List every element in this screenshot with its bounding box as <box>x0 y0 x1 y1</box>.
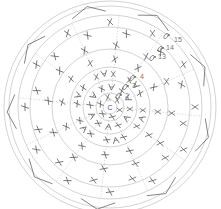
sc-x-icon <box>63 177 71 185</box>
sc-x-icon <box>117 108 123 112</box>
sc-x-icon <box>107 18 113 25</box>
edge-picot <box>7 94 16 128</box>
slip-stitch-dot-icon <box>154 56 156 58</box>
sc-x-icon <box>95 120 102 127</box>
slip-stitch-dot-icon <box>120 94 122 96</box>
sc-x-icon <box>99 110 106 117</box>
increase-v-icon <box>101 70 108 77</box>
sc-x-icon <box>180 147 187 153</box>
row-label: 2 <box>125 92 129 99</box>
sc-x-icon <box>137 90 143 97</box>
sc-x-icon <box>103 137 110 144</box>
slip-stitch-dot-icon <box>127 85 129 87</box>
sc-x-icon <box>149 177 157 184</box>
increase-v-icon <box>88 112 96 120</box>
slip-stitch-dot-icon <box>162 47 164 49</box>
sc-x-icon <box>109 114 116 120</box>
slip-stitch-dot-icon <box>168 34 170 36</box>
edge-picot <box>138 15 169 31</box>
sc-x-icon <box>133 124 140 129</box>
row-label: 15 <box>174 36 182 43</box>
sc-x-icon <box>80 84 86 91</box>
sc-x-icon <box>34 126 42 134</box>
sc-x-icon <box>68 76 73 83</box>
sc-x-icon <box>94 74 99 81</box>
sc-x-icon <box>132 160 140 166</box>
sc-x-icon <box>64 29 71 37</box>
increase-v-icon <box>89 92 97 100</box>
sc-x-icon <box>76 117 83 124</box>
sc-x-icon <box>120 134 127 140</box>
sc-x-icon <box>178 81 185 89</box>
increase-v-icon <box>108 84 114 90</box>
increase-v-icon <box>80 125 88 133</box>
sc-x-icon <box>150 83 158 91</box>
chain-oval-icon <box>157 46 163 53</box>
increase-v-icon <box>122 114 130 122</box>
increase-v-icon <box>74 91 82 99</box>
sc-x-icon <box>122 30 130 38</box>
edge-picot <box>190 55 205 87</box>
edge-picot <box>147 177 176 196</box>
sc-x-icon <box>129 176 137 182</box>
sc-x-icon <box>115 122 122 128</box>
crochet-chart: 234131415 C <box>0 0 221 209</box>
sc-x-icon <box>51 52 59 60</box>
sc-x-icon <box>78 142 86 150</box>
sc-x-icon <box>164 78 169 85</box>
sc-x-icon <box>192 105 199 110</box>
sc-x-icon <box>32 145 40 153</box>
sc-x-icon <box>180 121 187 126</box>
sc-x-icon <box>181 61 187 68</box>
sc-x-icon <box>105 94 110 101</box>
row-label: 4 <box>140 73 144 80</box>
row-label: 13 <box>158 53 166 60</box>
chain-oval-icon <box>122 84 128 91</box>
sc-x-icon <box>150 30 155 37</box>
slip-stitch-dot-icon <box>134 76 136 78</box>
sc-x-icon <box>126 147 134 154</box>
sc-x-icon <box>33 60 40 68</box>
sc-x-icon <box>157 140 164 146</box>
sc-x-icon <box>84 31 92 39</box>
sc-x-icon <box>33 87 41 95</box>
chain-oval-icon <box>129 75 135 82</box>
row-label: 14 <box>166 44 174 51</box>
sc-x-icon <box>55 159 63 166</box>
increase-v-icon <box>105 124 111 130</box>
sc-x-icon <box>98 85 105 92</box>
row-label: 3 <box>132 82 136 89</box>
edge-picot <box>195 118 208 151</box>
start-markers <box>115 33 170 100</box>
center-label: C <box>107 104 112 111</box>
increase-v-icon <box>138 115 146 123</box>
sc-x-icon <box>21 103 29 111</box>
sc-x-icon <box>88 60 93 67</box>
sc-x-icon <box>134 64 141 72</box>
chain-oval-icon <box>163 33 169 40</box>
sc-x-icon <box>90 177 98 184</box>
sc-x-icon <box>106 188 114 195</box>
sc-x-icon <box>63 123 70 131</box>
increase-v-icon <box>112 137 119 144</box>
sc-x-icon <box>162 155 169 160</box>
chain-oval-icon <box>149 55 155 62</box>
sc-x-icon <box>74 100 81 107</box>
sc-x-icon <box>87 130 94 137</box>
